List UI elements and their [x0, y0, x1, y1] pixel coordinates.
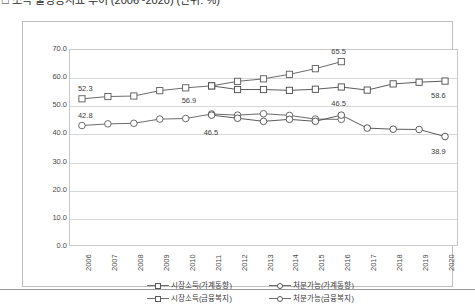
data-point-square [79, 96, 85, 102]
x-axis-tick: 2019 [422, 254, 430, 271]
chart-legend: 시장소득(가계동향)처분가능(가계동향)시장소득(금융복지)처분가능(금융복지) [69, 280, 458, 306]
data-point-circle [131, 120, 138, 127]
data-point-circle [105, 121, 112, 128]
data-point-circle [442, 133, 449, 140]
x-axis-tick: 2014 [292, 254, 300, 271]
legend-marker-square-icon [147, 294, 169, 303]
data-point-circle [156, 116, 163, 123]
series-layer [69, 49, 458, 246]
y-axis-tick: 70.0 [33, 45, 67, 53]
data-label: 52.3 [78, 84, 93, 93]
x-axis-tick: 2006 [85, 254, 93, 271]
x-axis-tick: 2013 [267, 254, 275, 271]
data-label: 46.5 [204, 128, 219, 137]
y-axis-tick: 40.0 [33, 129, 67, 137]
data-point-square [286, 87, 292, 93]
x-axis-tick: 2008 [137, 254, 145, 271]
data-point-circle [234, 115, 241, 122]
x-axis-tick: 2010 [189, 254, 197, 271]
series-circle [208, 112, 448, 140]
legend-label: 시장소득(금융복지) [171, 294, 232, 303]
data-label: 58.6 [431, 91, 446, 100]
data-point-circle [364, 125, 371, 132]
data-point-square [209, 83, 215, 89]
data-label: 46.5 [331, 99, 346, 108]
legend-item[interactable]: 처분가능(금융복지) [269, 293, 354, 304]
data-point-square [286, 71, 292, 77]
data-point-square [260, 86, 266, 92]
legend-item[interactable]: 시장소득(금융복지) [147, 293, 232, 304]
data-point-square [260, 76, 266, 82]
data-label: 38.9 [431, 147, 446, 156]
y-axis-tick: 10.0 [33, 214, 67, 222]
x-axis-tick: 2015 [318, 254, 326, 271]
x-axis: 2006200720082009201020112012201320142015… [69, 247, 458, 281]
data-point-circle [312, 118, 319, 125]
series-line [212, 81, 445, 90]
y-axis-tick: 30.0 [33, 158, 67, 166]
x-axis-tick: 2011 [215, 255, 223, 271]
data-point-square [234, 78, 240, 84]
x-axis-tick: 2018 [396, 254, 404, 271]
data-label: 56.9 [182, 96, 197, 105]
data-point-circle [182, 115, 189, 122]
data-point-square [105, 93, 111, 99]
data-point-circle [286, 116, 293, 123]
data-point-square [338, 84, 344, 90]
data-point-square [416, 79, 422, 85]
data-point-square [364, 87, 370, 93]
data-point-circle [390, 126, 397, 133]
data-point-circle [79, 122, 86, 129]
data-point-circle [260, 118, 267, 125]
data-point-circle [208, 112, 215, 119]
chart-title-strip: □ 소득 불평등지표 추이 (2006~2020) (단위: %) [0, 0, 475, 11]
legend-label: 처분가능(금융복지) [293, 294, 354, 303]
series-line [212, 115, 445, 136]
series-square [79, 59, 345, 102]
y-axis-tick: 20.0 [33, 186, 67, 194]
data-point-square [234, 86, 240, 92]
y-axis-tick: 50.0 [33, 101, 67, 109]
chart-frame: 0.010.020.030.040.050.060.070.0 20062007… [22, 21, 453, 287]
data-point-square [183, 85, 189, 91]
data-point-square [442, 78, 448, 84]
y-axis-tick: 0.0 [33, 242, 67, 250]
x-axis-tick: 2007 [111, 254, 119, 271]
data-point-square [338, 59, 344, 65]
data-point-square [390, 81, 396, 87]
data-point-circle [416, 126, 423, 133]
x-axis-tick: 2017 [370, 254, 378, 271]
y-axis-tick: 60.0 [33, 73, 67, 81]
page-title: □ 소득 불평등지표 추이 (2006~2020) (단위: %) [2, 0, 220, 7]
y-axis: 0.010.020.030.040.050.060.070.0 [29, 49, 67, 246]
data-point-square [312, 86, 318, 92]
x-axis-tick: 2020 [448, 254, 456, 271]
legend-marker-circle-icon [269, 294, 291, 303]
data-point-square [131, 93, 137, 99]
x-axis-tick: 2012 [241, 254, 249, 271]
x-axis-tick: 2016 [344, 254, 352, 271]
data-point-circle [338, 112, 345, 119]
bottom-divider [0, 289, 475, 290]
data-label: 42.8 [78, 111, 93, 120]
data-point-square [157, 88, 163, 94]
x-axis-tick: 2009 [163, 254, 171, 271]
data-point-square [312, 66, 318, 72]
data-point-circle [260, 110, 267, 117]
series-line [82, 62, 341, 99]
data-label: 65.5 [331, 47, 346, 56]
